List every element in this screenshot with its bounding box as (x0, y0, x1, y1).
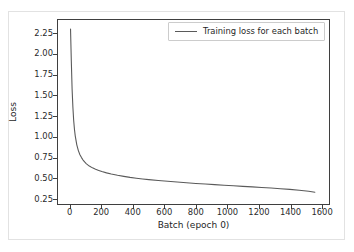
y-tick-label: 0.75 (34, 153, 53, 161)
y-tick-label: 1.00 (34, 132, 53, 140)
legend-box: Training loss for each batch (168, 22, 325, 41)
y-tick-mark (53, 178, 57, 179)
x-axis-tick-labels: 02004006008001000120014001600 (57, 208, 330, 220)
y-axis-label: Loss (9, 102, 18, 122)
y-axis-tick-labels: 0.250.500.751.001.251.501.752.002.25 (24, 19, 53, 205)
x-tick-label: 600 (156, 208, 172, 216)
y-tick-mark (53, 137, 57, 138)
y-axis-label-container: Loss (6, 19, 20, 205)
y-tick-label: 0.50 (34, 174, 53, 182)
y-tick-mark (53, 33, 57, 34)
y-tick-mark (53, 199, 57, 200)
x-tick-label: 1400 (280, 208, 301, 216)
y-tick-mark (53, 116, 57, 117)
y-tick-mark (53, 75, 57, 76)
legend-line-sample (175, 31, 197, 32)
y-tick-label: 2.25 (34, 29, 53, 37)
loss-curve-svg (58, 20, 329, 204)
figure-canvas: Loss 0.250.500.751.001.251.501.752.002.2… (0, 0, 354, 252)
x-tick-label: 400 (125, 208, 141, 216)
y-tick-mark (53, 158, 57, 159)
y-tick-label: 1.50 (34, 91, 53, 99)
x-tick-label: 800 (188, 208, 204, 216)
y-tick-label: 1.75 (34, 70, 53, 78)
y-tick-mark (53, 95, 57, 96)
x-tick-label: 1000 (217, 208, 238, 216)
plot-area (57, 19, 330, 205)
y-tick-label: 1.25 (34, 112, 53, 120)
y-tick-label: 2.00 (34, 49, 53, 57)
x-tick-label: 1200 (248, 208, 269, 216)
training-loss-line (71, 29, 315, 192)
x-tick-label: 0 (67, 208, 72, 216)
x-tick-label: 200 (93, 208, 109, 216)
x-axis-label: Batch (epoch 0) (57, 221, 330, 230)
y-tick-label: 0.25 (34, 195, 53, 203)
y-tick-mark (53, 54, 57, 55)
legend-entry-label: Training loss for each batch (203, 27, 318, 35)
x-tick-label: 1600 (311, 208, 332, 216)
